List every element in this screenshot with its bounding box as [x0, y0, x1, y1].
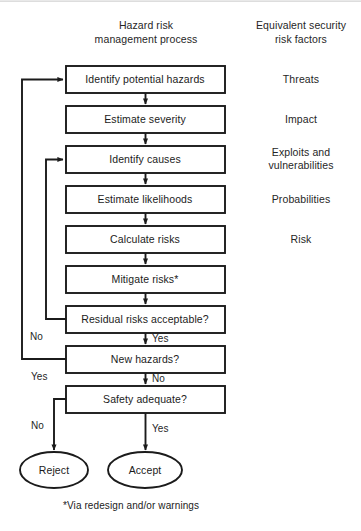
node-label-calculate-risks: Calculate risks — [66, 233, 224, 245]
node-label-mitigate-risks: Mitigate risks* — [66, 273, 224, 285]
node-label-identify-potential-hazards: Identify potential hazards — [66, 73, 224, 85]
column-header-left-line2: management process — [78, 33, 214, 47]
node-label-accept: Accept — [108, 464, 182, 476]
edge-residual-no-loop — [46, 160, 66, 320]
node-label-new-hazards: New hazards? — [66, 353, 224, 365]
risk-factor-probabilities: Probabilities — [246, 193, 356, 207]
risk-factor-threats: Threats — [246, 73, 356, 87]
edge-label-residual-no: No — [30, 331, 43, 342]
node-label-identify-causes: Identify causes — [66, 153, 224, 165]
column-header-left: Hazard risk management process — [78, 19, 214, 46]
node-label-reject: Reject — [20, 464, 88, 476]
risk-factor-risk: Risk — [246, 233, 356, 247]
column-header-right-line1: Equivalent security — [246, 19, 356, 33]
node-label-estimate-severity: Estimate severity — [66, 113, 224, 125]
column-header-left-line1: Hazard risk — [78, 19, 214, 33]
edge-new-hazards-yes-loop — [22, 80, 66, 360]
column-header-right-line2: risk factors — [246, 33, 356, 47]
flowchart-figure: Hazard risk management process Equivalen… — [0, 0, 361, 531]
node-label-residual-risks-acceptable: Residual risks acceptable? — [66, 313, 224, 325]
edge-label-hazards-no: No — [152, 373, 165, 384]
edge-label-safety-yes: Yes — [152, 423, 169, 434]
edge-label-residual-yes: Yes — [152, 333, 169, 344]
risk-factor-impact: Impact — [246, 113, 356, 127]
node-label-estimate-likelihoods: Estimate likelihoods — [66, 193, 224, 205]
node-label-safety-adequate: Safety adequate? — [66, 393, 224, 405]
edge-label-safety-no: No — [31, 420, 44, 431]
risk-factor-exploits-line2: vulnerabilities — [246, 159, 356, 173]
risk-factor-exploits: Exploits and — [246, 146, 356, 160]
edge-label-hazards-yes: Yes — [31, 371, 48, 382]
edge-safety-no-to-reject — [54, 399, 66, 450]
column-header-right: Equivalent security risk factors — [246, 19, 356, 46]
footnote: *Via redesign and/or warnings — [63, 500, 303, 511]
